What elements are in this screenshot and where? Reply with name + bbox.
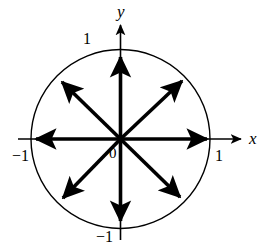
unit-vector-group	[36, 57, 207, 221]
y-axis-tick-label-one: 1	[83, 31, 91, 47]
x-axis-tick-label-negative-one: −1	[12, 148, 29, 164]
unit-circle-figure: y x 1 1 −1 −1 0	[0, 0, 265, 250]
y-axis-tick-label-negative-one: −1	[96, 229, 113, 245]
origin-label: 0	[109, 146, 117, 161]
x-axis-label: x	[249, 130, 257, 147]
unit-circle-canvas	[0, 0, 265, 250]
vector-315-deg	[121, 139, 181, 197]
y-axis-label: y	[117, 3, 125, 20]
x-axis-tick-label-one: 1	[215, 148, 223, 164]
vector-45-deg	[121, 81, 183, 139]
vector-135-deg	[62, 82, 121, 139]
